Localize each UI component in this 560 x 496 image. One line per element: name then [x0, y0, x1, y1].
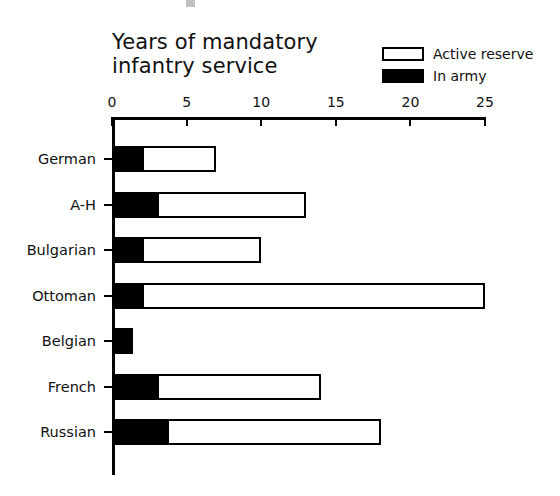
- x-axis-tick-label: 0: [108, 95, 117, 109]
- bar-row: Ottoman: [112, 283, 485, 309]
- bar-row: Belgian: [112, 328, 133, 354]
- chart-legend: Active reserve In army: [382, 44, 557, 88]
- legend-swatch-in-army-icon: [382, 69, 424, 83]
- stacked-bar-chart: Years of mandatory infantry service Acti…: [0, 0, 560, 496]
- legend-item-in-army: In army: [382, 66, 557, 85]
- chart-title: Years of mandatory infantry service: [112, 30, 372, 78]
- bar-segment-active-reserve: [142, 146, 217, 172]
- category-label: Belgian: [42, 334, 96, 349]
- legend-swatch-active-reserve-icon: [382, 47, 424, 61]
- legend-item-active-reserve: Active reserve: [382, 44, 557, 63]
- bar-segment-in-army: [112, 192, 157, 218]
- category-label: Bulgarian: [27, 243, 96, 258]
- bar-segment-in-army: [112, 237, 142, 263]
- scan-artifact: [186, 0, 195, 7]
- x-axis-tick-label: 20: [401, 95, 419, 109]
- bar-segment-active-reserve: [157, 374, 321, 400]
- x-axis-tick: [186, 117, 188, 126]
- bar-row: German: [112, 146, 216, 172]
- category-label: French: [48, 379, 96, 394]
- bar-segment-active-reserve: [167, 419, 380, 445]
- bar-segment-in-army: [112, 146, 142, 172]
- bar-segment-active-reserve: [142, 283, 485, 309]
- legend-label-active-reserve: Active reserve: [433, 47, 533, 61]
- x-axis-tick: [260, 117, 262, 126]
- bar-row: A-H: [112, 192, 306, 218]
- bar-segment-in-army: [112, 419, 167, 445]
- x-axis-tick-label: 15: [327, 95, 345, 109]
- x-axis-tick-label: 25: [476, 95, 494, 109]
- bar-segment-active-reserve: [157, 192, 306, 218]
- plot-area: 0510152025 GermanA-HBulgarianOttomanBelg…: [112, 117, 485, 475]
- category-label: Russian: [40, 425, 96, 440]
- bar-segment-active-reserve: [142, 237, 261, 263]
- x-axis-tick: [111, 117, 113, 126]
- x-axis-tick: [409, 117, 411, 126]
- bar-row: Russian: [112, 419, 381, 445]
- x-axis-tick-label: 5: [182, 95, 191, 109]
- legend-label-in-army: In army: [433, 69, 486, 83]
- bar-segment-in-army: [112, 283, 142, 309]
- bar-row: Bulgarian: [112, 237, 261, 263]
- bar-segment-in-army: [112, 328, 133, 354]
- x-axis-line: [112, 117, 485, 120]
- category-label: A-H: [70, 197, 96, 212]
- x-axis-tick: [335, 117, 337, 126]
- x-axis-tick: [484, 117, 486, 126]
- x-axis-tick-label: 10: [252, 95, 270, 109]
- bar-row: French: [112, 374, 321, 400]
- category-label: German: [38, 152, 96, 167]
- category-label: Ottoman: [32, 288, 96, 303]
- bar-segment-in-army: [112, 374, 157, 400]
